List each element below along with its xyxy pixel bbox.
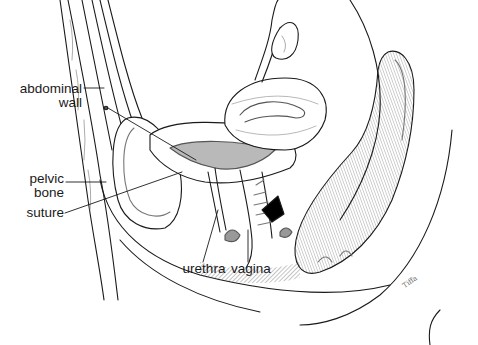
vaginal-opening-fill (262, 196, 284, 222)
suture-dot (104, 106, 108, 110)
label-line: abdominal (12, 82, 82, 96)
label-urethra: urethra (174, 262, 234, 276)
label-line: bone (12, 186, 64, 200)
label-abdominal-wall: abdominal wall (12, 82, 82, 110)
label-line: urethra (174, 262, 234, 276)
label-vagina: vagina (226, 262, 276, 276)
label-line: wall (12, 96, 82, 110)
label-line: vagina (226, 262, 276, 276)
uterus-shape (225, 78, 326, 150)
pelvic-anatomy-diagram: abdominal wall pelvic bone suture urethr… (0, 0, 478, 345)
anatomy-line-art (0, 0, 478, 345)
vagina-shape (240, 170, 284, 268)
gland-detail (280, 228, 292, 237)
ovary-tube-shape (255, 0, 298, 82)
gland-detail (225, 230, 240, 242)
label-suture: suture (12, 206, 64, 220)
leg-outline (429, 310, 440, 345)
label-line: pelvic (12, 172, 64, 186)
label-pelvic-bone: pelvic bone (12, 172, 64, 200)
label-line: suture (12, 206, 64, 220)
